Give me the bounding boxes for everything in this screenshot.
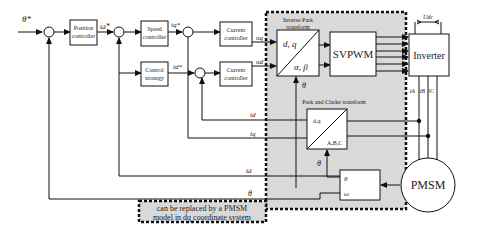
theta-fb-label: θ	[248, 189, 252, 198]
theta-ip-label: θ	[302, 81, 306, 90]
uq-label: uq	[256, 34, 264, 42]
svpwm-label: SVPWM	[333, 48, 374, 60]
ib-label: iB	[420, 88, 426, 94]
theta-ref-label: θ*	[22, 14, 31, 24]
sensor-theta: θ	[344, 175, 348, 183]
inverse-park-ab: α, β	[294, 62, 308, 72]
speed-controller-label2: controller	[143, 34, 166, 40]
pmsm-control-diagram: can be replaced by a PMSM model in dq co…	[0, 0, 477, 244]
note-line1: can be replaced by a PMSM	[157, 204, 247, 213]
udc-label: Udc	[423, 14, 433, 20]
inverse-park-title: Inverse Park	[283, 17, 313, 23]
position-controller-label2: controller	[72, 33, 95, 39]
iq-label: iq	[250, 130, 256, 138]
speed-controller-label: Speed	[147, 26, 162, 32]
id-ref-label: id*	[173, 63, 182, 71]
id-label: id	[250, 111, 256, 119]
ic-label: iC	[428, 88, 435, 94]
omega-ref-label: ω*	[100, 22, 110, 31]
note-line2: model in dq coordinate system	[153, 213, 252, 222]
theta-pc-label: θ	[317, 159, 321, 168]
inverter-label: Inverter	[413, 50, 445, 61]
current-controller-d-label: Current	[227, 67, 246, 73]
position-controller-label: Position	[74, 25, 94, 31]
current-controller-q-label: Current	[227, 27, 246, 33]
control-strategy-label: Control	[145, 67, 164, 73]
current-controller-d-label2: controller	[224, 75, 247, 81]
park-clarke-abc: A,B,C	[327, 140, 342, 146]
current-controller-q-label2: controller	[224, 35, 247, 41]
ud-label: ud	[256, 58, 264, 66]
inverse-park-dq: d, q	[283, 39, 297, 49]
omega-label: ω	[246, 166, 252, 175]
park-clarke-title: Park and Clarke transform	[302, 99, 366, 105]
ia-label: iA	[410, 88, 416, 94]
control-strategy-label2: strategy	[145, 75, 164, 81]
pmsm-label: PMSM	[411, 178, 446, 192]
inverse-park-title2: transform	[286, 24, 310, 30]
iq-ref-label: iq*	[171, 21, 180, 29]
park-clarke-dq: d,q	[313, 118, 321, 124]
sensor-omega: ω	[344, 190, 349, 198]
